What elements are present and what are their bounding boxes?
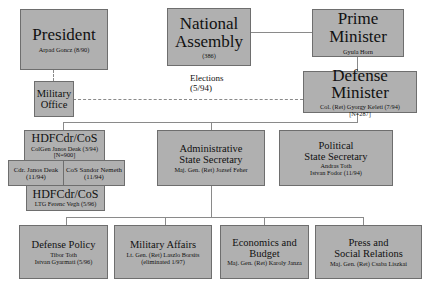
dept-title: Military Affairs bbox=[130, 239, 196, 250]
dept-drop-4 bbox=[363, 217, 364, 225]
departments-bus-connector bbox=[66, 217, 364, 218]
dm-title: Defense Minister bbox=[304, 67, 416, 103]
hdf2-title: HDFCdr/CoS bbox=[32, 188, 98, 201]
hdf-staff: [N=900] bbox=[54, 152, 76, 159]
mo-line1: Military bbox=[37, 88, 71, 99]
military-office-box: Military Office bbox=[34, 81, 74, 117]
dept-drop-1 bbox=[66, 217, 67, 225]
assembly-to-pm-connector bbox=[250, 32, 312, 33]
hdf-title: HDFCdr/CoS bbox=[31, 132, 97, 145]
department-military-affairs-box: Military Affairs Lt. Gen. (Ret) Laszlo B… bbox=[114, 225, 212, 279]
cdr-name: Cdr. Janos Deak bbox=[14, 166, 58, 173]
department-press-social-relations-box: Press and Social Relations Maj. Gen. (Re… bbox=[315, 225, 422, 279]
admin-line2: State Secretary bbox=[179, 154, 242, 165]
pm-title: Prime Minister bbox=[313, 10, 403, 46]
hdf-drop-connector bbox=[63, 122, 64, 130]
elections-label: Elections (5/94) bbox=[190, 73, 224, 94]
assembly-seats: (386) bbox=[202, 53, 216, 60]
prime-minister-box: Prime Minister Gyula Horn bbox=[312, 9, 404, 57]
dm-staff: [N=287] bbox=[349, 111, 371, 118]
hdf2-name: LTG Ferenc Vegh (5/96) bbox=[35, 201, 97, 208]
cdr-date: (11/94) bbox=[26, 173, 46, 180]
dept-title: Economics and bbox=[232, 237, 296, 248]
admin-drop-connector bbox=[211, 122, 212, 130]
admin-state-secretary-box: Administrative State Secretary Maj. Gen.… bbox=[157, 130, 265, 186]
dept-name1: Maj. Gen. (Ret) Karoly Janza bbox=[227, 260, 302, 267]
mo-line2: Office bbox=[41, 99, 68, 110]
president-name: Arpad Goncz (8/90) bbox=[39, 47, 90, 54]
dept-title-line2: Budget bbox=[249, 248, 279, 259]
political-line1: Political bbox=[319, 140, 354, 151]
national-assembly-box: National Assembly (386) bbox=[167, 8, 251, 66]
admin-name: Maj. Gen. (Ret) Jozsef Feher bbox=[174, 167, 247, 174]
dept-title-line2: Social Relations bbox=[334, 248, 403, 259]
political-name2: Istvan Fodor (11/94) bbox=[310, 170, 362, 177]
department-economics-budget-box: Economics and Budget Maj. Gen. (Ret) Kar… bbox=[220, 225, 309, 279]
hdf-cdr-cos-2-box: HDFCdr/CoS LTG Ferenc Vegh (5/96) bbox=[26, 185, 105, 211]
president-title: President bbox=[32, 26, 95, 44]
defense-minister-box: Defense Minister Col. (Ret) Gyorgy Kelet… bbox=[303, 71, 417, 113]
hdf-chief-of-staff-box: CoS Sandor Nemeth (11/94) bbox=[63, 160, 125, 186]
dept-drop-3 bbox=[264, 217, 265, 225]
cos-date: (11/94) bbox=[84, 173, 104, 180]
admin-to-departments-connector bbox=[211, 186, 212, 217]
dept-title: Defense Policy bbox=[32, 239, 96, 250]
pm-name: Gyula Horn bbox=[343, 49, 373, 56]
elections-date: (5/94) bbox=[190, 83, 224, 93]
department-defense-policy-box: Defense Policy Tibor Toth Istvan Gyarmat… bbox=[19, 225, 108, 279]
political-state-secretary-box: Political State Secretary Andras Toth Is… bbox=[279, 130, 393, 186]
political-line2: State Secretary bbox=[304, 151, 367, 162]
president-to-military-office-connector bbox=[53, 70, 54, 81]
dept-name2: (eliminated 1/97) bbox=[141, 259, 185, 266]
hdf-commander-box: Cdr. Janos Deak (11/94) bbox=[8, 160, 64, 186]
assembly-title-line1: National bbox=[180, 15, 239, 33]
admin-line1: Administrative bbox=[180, 143, 243, 154]
president-box: President Arpad Goncz (8/90) bbox=[20, 9, 108, 70]
dept-title: Press and bbox=[349, 237, 389, 248]
military-office-to-defense-minister-connector bbox=[73, 99, 303, 100]
dept-drop-2 bbox=[165, 217, 166, 225]
dept-name2: Istvan Gyarmati (5/96) bbox=[35, 259, 93, 266]
dept-name1: Maj. Gen. (Ret) Csaba Liszkai bbox=[330, 261, 407, 268]
cos-name: CoS Sandor Nemeth bbox=[66, 166, 122, 173]
assembly-title-line2: Assembly bbox=[175, 33, 243, 51]
elections-text: Elections bbox=[190, 73, 224, 83]
hdf-cdr-cos-box: HDFCdr/CoS ColGen Janos Deak (3/94) [N=9… bbox=[24, 130, 105, 161]
